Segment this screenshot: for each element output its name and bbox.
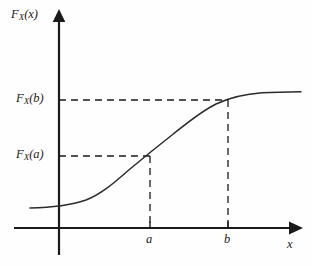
x-tick-label-b: b xyxy=(224,233,230,246)
fxa-arg: (a) xyxy=(29,147,44,161)
x-tick-label-a: a xyxy=(146,233,152,246)
y-axis-arrowhead xyxy=(53,9,66,22)
cdf-figure: FX(x) FX(b) FX(a) a b x xyxy=(0,0,312,266)
fxb-arg: (b) xyxy=(29,91,44,105)
y-axis-label: FX(x) xyxy=(11,8,38,22)
x-axis-arrowhead xyxy=(289,222,303,235)
x-axis xyxy=(14,222,303,235)
cdf-curve xyxy=(30,92,301,208)
y-axis-label-arg: (x) xyxy=(24,7,38,21)
y-tick-label-fxa: FX(a) xyxy=(16,148,44,162)
y-axis xyxy=(53,9,66,255)
y-axis-label-base: F xyxy=(11,7,19,21)
y-tick-label-fxb: FX(b) xyxy=(16,92,44,106)
x-axis-label: x xyxy=(287,238,293,251)
cdf-plot-svg xyxy=(0,0,312,266)
fxb-base: F xyxy=(16,91,24,105)
fxa-base: F xyxy=(16,147,24,161)
